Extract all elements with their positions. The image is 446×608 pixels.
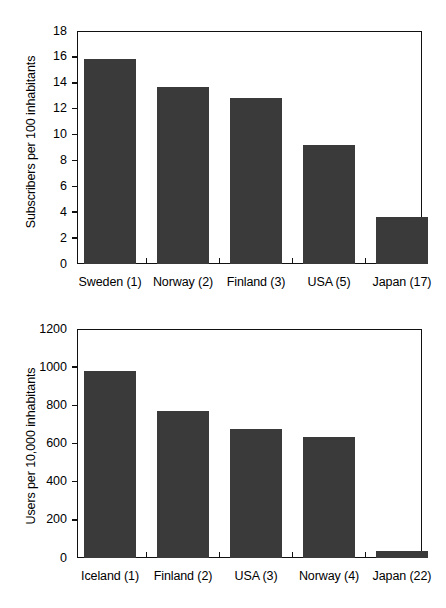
y-tick-mark (72, 405, 77, 407)
y-tick-mark (72, 160, 77, 162)
y-tick-label: 0 (15, 552, 67, 564)
y-tick-label: 200 (15, 513, 67, 525)
bar (157, 87, 209, 264)
x-tick-mark (146, 258, 148, 264)
bar (84, 59, 136, 264)
x-tick-label: Japan (17) (357, 275, 446, 289)
y-tick-label: 400 (15, 475, 67, 487)
y-tick-label: 10 (15, 128, 67, 140)
y-tick-mark (72, 211, 77, 213)
x-tick-mark (292, 258, 294, 264)
bar (230, 429, 282, 558)
y-tick-label: 18 (15, 25, 67, 37)
y-tick-mark (72, 237, 77, 239)
x-tick-mark (365, 552, 367, 558)
y-tick-label: 1000 (15, 361, 67, 373)
y-tick-mark (72, 443, 77, 445)
y-tick-mark (72, 186, 77, 188)
y-tick-label: 1200 (15, 323, 67, 335)
chart-subscribers-per-100-inhabitants: Subscribers per 100 inhabitants 18161412… (0, 0, 446, 304)
y-tick-label: 2 (15, 232, 67, 244)
x-tick-mark (146, 552, 148, 558)
x-tick-mark (292, 552, 294, 558)
y-tick-label: 0 (15, 258, 67, 270)
y-tick-label: 800 (15, 399, 67, 411)
y-tick-mark (72, 108, 77, 110)
bar (376, 217, 428, 264)
x-tick-mark (365, 258, 367, 264)
bar (303, 437, 355, 558)
y-tick-mark (72, 82, 77, 84)
chart-users-per-10000-inhabitants: Users per 10,000 inhabitants 12001000800… (0, 304, 446, 608)
y-tick-mark (72, 481, 77, 483)
x-tick-mark (219, 552, 221, 558)
y-tick-label: 12 (15, 102, 67, 114)
y-tick-mark (72, 56, 77, 58)
bar (84, 371, 136, 558)
y-tick-label: 8 (15, 154, 67, 166)
bar (303, 145, 355, 264)
y-tick-label: 16 (15, 50, 67, 62)
y-tick-label: 4 (15, 206, 67, 218)
y-tick-label: 6 (15, 180, 67, 192)
y-tick-mark (72, 519, 77, 521)
x-tick-mark (219, 258, 221, 264)
bar (376, 551, 428, 558)
y-tick-mark (72, 366, 77, 368)
y-tick-label: 14 (15, 76, 67, 88)
bar (157, 411, 209, 558)
y-tick-mark (72, 134, 77, 136)
bar (230, 98, 282, 264)
y-tick-label: 600 (15, 437, 67, 449)
x-tick-label: Japan (22) (357, 569, 446, 583)
